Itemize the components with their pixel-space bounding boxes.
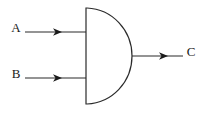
logic-gate-diagram: A B C: [0, 0, 202, 114]
input-label-a: A: [11, 20, 21, 35]
and-gate-body: [86, 8, 132, 104]
diagram-canvas: A B C: [0, 0, 202, 114]
input-label-b: B: [12, 66, 21, 81]
output-label-c: C: [187, 44, 196, 59]
